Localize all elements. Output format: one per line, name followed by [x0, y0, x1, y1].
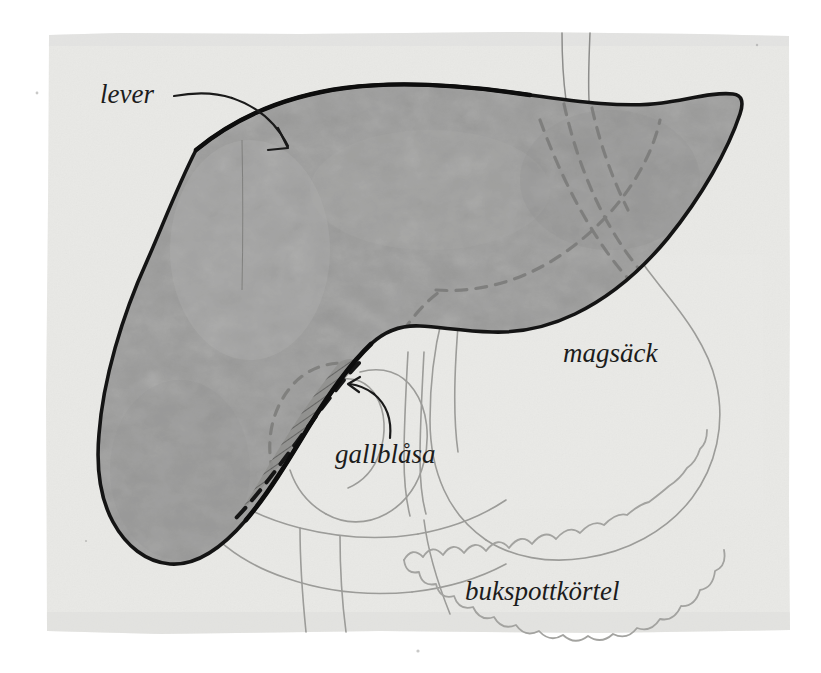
- label-lever: lever: [100, 79, 154, 109]
- anatomy-figure: lever magsäck gallblåsa bukspottkörtel: [0, 0, 821, 673]
- label-gallblasa: gallblåsa: [335, 439, 436, 469]
- label-magsack: magsäck: [563, 338, 658, 368]
- anatomy-illustration-svg: lever magsäck gallblåsa bukspottkörtel: [0, 0, 821, 673]
- label-bukspottkortel: bukspottkörtel: [465, 576, 619, 606]
